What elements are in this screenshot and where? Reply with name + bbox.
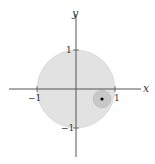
unit-disk-diagram: y x 1 −1 −1 1 [0,0,155,164]
tick-label-y-pos: 1 [66,45,72,55]
tick-label-x-neg: −1 [28,93,41,103]
y-axis-label: y [71,7,79,20]
center-point [100,97,103,100]
tick-label-y-neg: −1 [61,123,74,133]
tick-label-x-pos: 1 [114,93,120,103]
x-axis-label: x [143,82,150,95]
